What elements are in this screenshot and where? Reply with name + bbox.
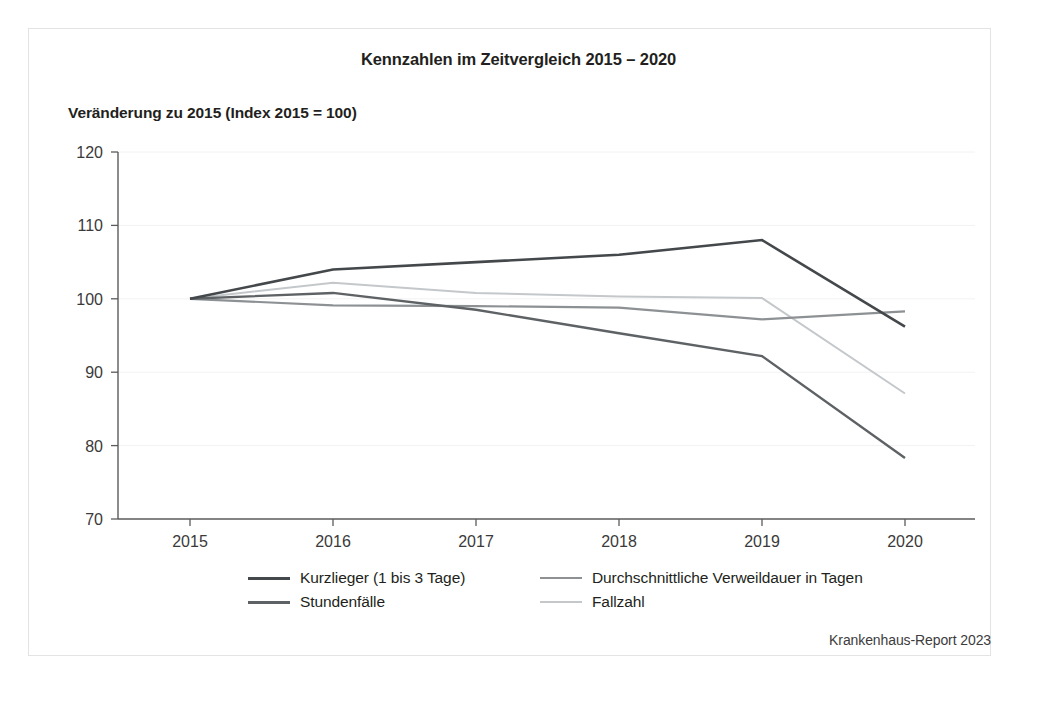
legend-label-kurzlieger: Kurzlieger (1 bis 3 Tage) — [300, 569, 465, 587]
legend-swatch-verweildauer — [540, 577, 582, 579]
figure-root: Kennzahlen im Zeitvergleich 2015 – 2020 … — [0, 0, 1037, 701]
legend-row: Kurzlieger (1 bis 3 Tage) Durchschnittli… — [248, 566, 988, 590]
y-tick-label: 100 — [76, 291, 103, 308]
x-tick-label: 2019 — [744, 533, 780, 550]
series-line — [190, 299, 905, 320]
legend-swatch-kurzlieger — [248, 577, 290, 580]
x-tick-label: 2020 — [887, 533, 923, 550]
data-series — [190, 240, 905, 458]
y-tick-label: 120 — [76, 144, 103, 161]
gridlines — [118, 152, 975, 446]
legend-label-verweildauer: Durchschnittliche Verweildauer in Tagen — [592, 569, 863, 587]
legend-swatch-stundenfaelle — [248, 601, 290, 604]
legend-entry-kurzlieger[interactable]: Kurzlieger (1 bis 3 Tage) — [248, 569, 540, 587]
chart-legend: Kurzlieger (1 bis 3 Tage) Durchschnittli… — [248, 566, 988, 614]
legend-entry-verweildauer[interactable]: Durchschnittliche Verweildauer in Tagen — [540, 569, 863, 587]
source-note: Krankenhaus-Report 2023 — [829, 632, 991, 648]
series-line — [190, 240, 905, 327]
y-tick-label: 70 — [85, 511, 103, 528]
legend-entry-fallzahl[interactable]: Fallzahl — [540, 593, 645, 611]
y-tick-label: 80 — [85, 438, 103, 455]
x-tick-label: 2016 — [315, 533, 351, 550]
legend-swatch-fallzahl — [540, 601, 582, 603]
x-tick-label: 2018 — [601, 533, 637, 550]
y-tick-label: 110 — [77, 217, 103, 234]
legend-label-fallzahl: Fallzahl — [592, 593, 645, 611]
x-tick-label: 2015 — [172, 533, 208, 550]
y-tick-label: 90 — [85, 364, 103, 381]
y-axis-ticks: 708090100110120 — [76, 144, 118, 528]
x-axis-ticks: 201520162017201820192020 — [172, 519, 923, 550]
legend-label-stundenfaelle: Stundenfälle — [300, 593, 385, 611]
x-tick-label: 2017 — [458, 533, 494, 550]
legend-row: Stundenfälle Fallzahl — [248, 590, 988, 614]
legend-entry-stundenfaelle[interactable]: Stundenfälle — [248, 593, 540, 611]
